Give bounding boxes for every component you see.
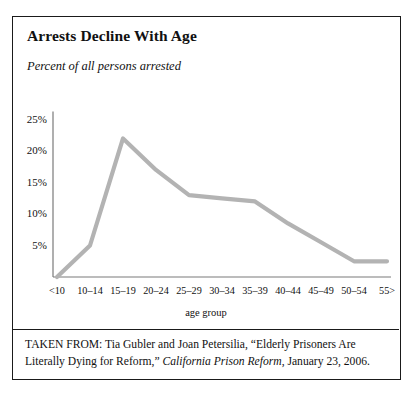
y-axis-tick-15: 15% xyxy=(15,176,47,188)
x-axis-tick-0: <10 xyxy=(49,285,65,296)
y-axis-tick-10: 10% xyxy=(15,207,47,219)
source-note: TAKEN FROM: Tia Gubler and Joan Petersil… xyxy=(25,337,389,371)
source-suffix: , January 23, 2006. xyxy=(282,355,370,368)
x-axis-tick-2: 15–19 xyxy=(110,285,135,296)
figure-frame: Arrests Decline With Age Percent of all … xyxy=(12,16,401,380)
x-axis-tick-3: 20–24 xyxy=(143,285,168,296)
x-axis-tick-9: 50–54 xyxy=(341,285,366,296)
x-axis-tick-7: 40–44 xyxy=(275,285,300,296)
x-axis-title: age group xyxy=(13,307,399,318)
x-axis-tick-6: 35–39 xyxy=(242,285,267,296)
x-axis-tick-4: 25–29 xyxy=(176,285,201,296)
y-axis-tick-20: 20% xyxy=(15,144,47,156)
y-axis-tick-5: 5% xyxy=(15,239,47,251)
source-publication: California Prison Reform xyxy=(162,355,281,368)
source-divider xyxy=(13,329,399,330)
x-axis-tick-1: 10–14 xyxy=(77,285,102,296)
x-axis-tick-8: 45–49 xyxy=(308,285,333,296)
line-chart: 25%20%15%10%5% <1010–1415–1920–2425–2930… xyxy=(13,17,399,317)
chart-plot-svg xyxy=(13,17,399,317)
x-axis-tick-5: 30–34 xyxy=(209,285,234,296)
y-axis-tick-25: 25% xyxy=(15,113,47,125)
x-axis-tick-10: 55> xyxy=(379,285,395,296)
